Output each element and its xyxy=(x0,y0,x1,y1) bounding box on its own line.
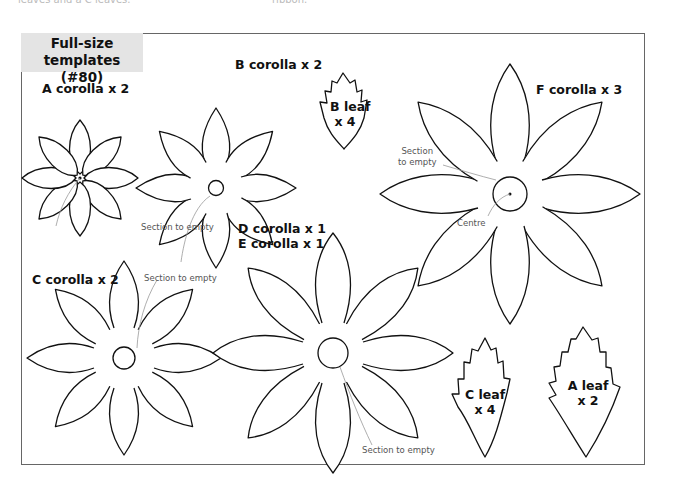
note-f-line1: Section xyxy=(398,146,437,157)
note-d-section-to-empty: Section to empty xyxy=(362,445,435,456)
label-e-corolla: E corolla x 1 xyxy=(238,236,326,251)
label-d-corolla: D corolla x 1 xyxy=(238,221,326,236)
template-drawings xyxy=(0,0,674,485)
note-f-line2: to empty xyxy=(398,157,437,168)
label-f-corolla: F corolla x 3 xyxy=(536,82,622,97)
label-c-leaf-line2: x 4 xyxy=(465,402,505,417)
section-to-empty-circle xyxy=(209,181,224,196)
section-to-empty-circle xyxy=(113,347,135,369)
label-a-leaf: A leaf x 2 xyxy=(565,378,611,408)
label-a-leaf-line2: x 2 xyxy=(565,393,611,408)
label-d-e-corolla: D corolla x 1 E corolla x 1 xyxy=(238,221,326,251)
corolla-c xyxy=(27,261,221,455)
label-c-leaf: C leaf x 4 xyxy=(465,387,505,417)
corolla-d-e xyxy=(213,233,453,473)
label-a-corolla: A corolla x 2 xyxy=(42,81,129,96)
label-c-corolla: C corolla x 2 xyxy=(32,272,119,287)
label-b-leaf-line1: B leaf xyxy=(330,99,360,114)
label-a-leaf-line1: A leaf xyxy=(565,378,611,393)
label-c-leaf-line1: C leaf xyxy=(465,387,505,402)
note-b-section-to-empty: Section to empty xyxy=(141,222,214,233)
note-f-section-to-empty: Section to empty xyxy=(398,146,437,168)
label-b-leaf: B leaf x 4 xyxy=(330,99,360,129)
note-c-section-to-empty: Section to empty xyxy=(144,273,217,284)
label-b-corolla: B corolla x 2 xyxy=(235,57,322,72)
note-f-centre: Centre xyxy=(457,218,485,229)
section-to-empty-circle xyxy=(318,338,348,368)
label-b-leaf-line2: x 4 xyxy=(330,114,360,129)
